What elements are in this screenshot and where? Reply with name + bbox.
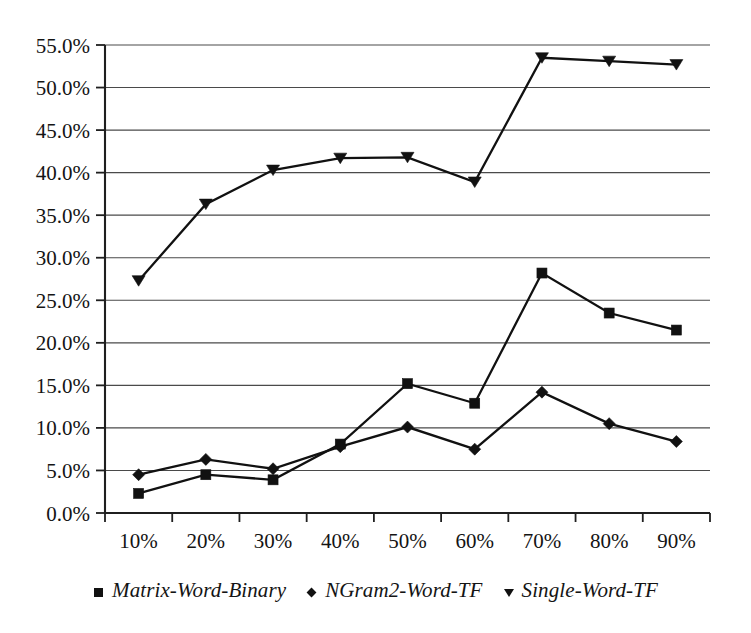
legend-label: Single-Word-TF: [522, 578, 658, 603]
x-axis-tick-label: 90%: [657, 529, 696, 553]
y-axis-tick-label: 45.0%: [36, 119, 90, 143]
square-marker-icon: [134, 488, 144, 498]
y-axis-tick-label: 0.0%: [46, 502, 90, 526]
square-marker-icon: [671, 325, 681, 335]
square-marker-icon: [604, 308, 614, 318]
x-axis-tick-label: 20%: [187, 529, 226, 553]
y-axis-tick-label: 25.0%: [36, 289, 90, 313]
y-axis-tick-label: 50.0%: [36, 76, 90, 100]
legend-item-matrix-word-binary[interactable]: Matrix-Word-Binary: [93, 578, 286, 603]
x-axis-tick-label: 70%: [523, 529, 562, 553]
y-axis-tick-label: 10.0%: [36, 416, 90, 440]
diamond-marker-icon: [306, 585, 318, 597]
x-axis-tick-label: 50%: [388, 529, 427, 553]
square-marker-icon: [93, 585, 105, 597]
y-axis-tick-label: 20.0%: [36, 331, 90, 355]
diamond-marker-icon: [267, 463, 279, 475]
triangle-down-marker-icon: [503, 585, 515, 597]
chart-legend: Matrix-Word-Binary NGram2-Word-TF Single…: [0, 578, 751, 603]
x-axis-tick-label: 80%: [590, 529, 629, 553]
triangle-down-marker-icon: [132, 276, 145, 287]
y-axis-tick-label: 40.0%: [36, 161, 90, 185]
y-axis-tick-label: 30.0%: [36, 246, 90, 270]
legend-label: NGram2-Word-TF: [325, 578, 482, 603]
x-axis-tick-label: 60%: [455, 529, 494, 553]
square-marker-icon: [268, 475, 278, 485]
y-axis-tick-label: 5.0%: [46, 459, 90, 483]
y-axis-tick-label: 55.0%: [36, 34, 90, 58]
diamond-marker-icon: [402, 421, 414, 433]
diamond-marker-icon: [200, 453, 212, 465]
x-axis-tick-label: 30%: [254, 529, 293, 553]
square-marker-icon: [403, 379, 413, 389]
square-marker-icon: [537, 268, 547, 278]
legend-label: Matrix-Word-Binary: [112, 578, 286, 603]
diamond-marker-icon: [670, 436, 682, 448]
plot-area: 0.0%5.0%10.0%15.0%20.0%25.0%30.0%35.0%40…: [0, 0, 751, 633]
x-axis-tick-label: 40%: [321, 529, 360, 553]
legend-item-ngram2-word-tf[interactable]: NGram2-Word-TF: [306, 578, 482, 603]
series-line-single-word-tf: [139, 58, 677, 281]
line-chart: 0.0%5.0%10.0%15.0%20.0%25.0%30.0%35.0%40…: [0, 0, 751, 633]
triangle-down-marker-icon: [468, 177, 481, 188]
x-axis-tick-label: 10%: [119, 529, 158, 553]
legend-item-single-word-tf[interactable]: Single-Word-TF: [503, 578, 658, 603]
square-marker-icon: [201, 470, 211, 480]
y-axis-tick-label: 35.0%: [36, 204, 90, 228]
square-marker-icon: [470, 398, 480, 408]
y-axis-tick-label: 15.0%: [36, 374, 90, 398]
